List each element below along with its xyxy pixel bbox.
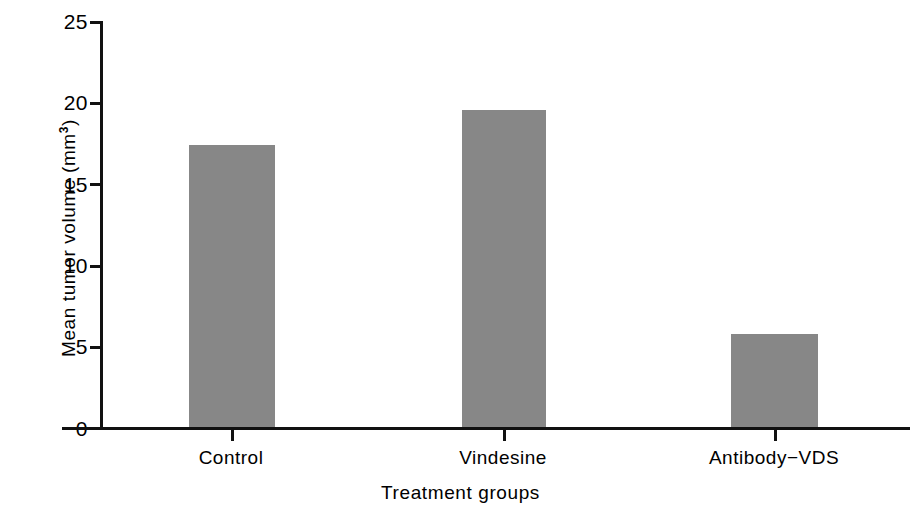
bar-antibody-vds xyxy=(731,334,818,428)
bars-layer xyxy=(0,22,921,428)
x-tick-mark-antibody-vds xyxy=(774,429,777,441)
x-axis-label-control: Control xyxy=(199,447,264,469)
x-axis-line xyxy=(62,427,910,430)
x-tick-mark-vindesine xyxy=(503,429,506,441)
bar-chart-figure: Mean tumor volume (mm3) 25 20 15 10 5 0 … xyxy=(0,0,921,513)
x-axis-label-vindesine: Vindesine xyxy=(459,447,547,469)
x-axis-title: Treatment groups xyxy=(0,482,921,504)
x-tick-mark-control xyxy=(231,429,234,441)
bar-vindesine xyxy=(462,110,546,428)
bar-control xyxy=(189,145,275,428)
x-axis-label-antibody-vds: Antibody−VDS xyxy=(709,447,839,469)
